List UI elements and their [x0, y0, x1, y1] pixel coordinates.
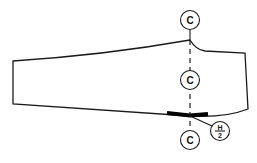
pattern-diagram: C C C H 2: [0, 0, 257, 163]
hem-marker-bar: [167, 113, 208, 116]
center-label-middle: C: [181, 71, 200, 90]
label-text: C: [186, 15, 193, 26]
center-label-bottom: C: [181, 131, 200, 150]
center-label-top: C: [181, 11, 200, 30]
pattern-outline: [13, 40, 248, 116]
half-measure-leader-line: [190, 116, 212, 126]
half-measure-label: H 2: [211, 122, 230, 141]
fraction-denominator: 2: [218, 132, 222, 139]
fraction-numerator: H: [217, 124, 222, 131]
label-text: C: [186, 135, 193, 146]
label-text: C: [186, 75, 193, 86]
